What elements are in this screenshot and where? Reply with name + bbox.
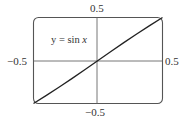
x-tick-left: −0.5 [7, 56, 27, 67]
x-tick-right: 0.5 [165, 56, 179, 67]
equation-annotation: y = sin x [51, 35, 87, 46]
equation-variable: x [82, 34, 87, 45]
y-tick-bottom: −0.5 [85, 107, 105, 118]
sine-curve [34, 18, 163, 104]
equation-prefix: y = sin [51, 34, 82, 45]
y-tick-top: 0.5 [90, 3, 104, 14]
chart-canvas [0, 0, 187, 123]
